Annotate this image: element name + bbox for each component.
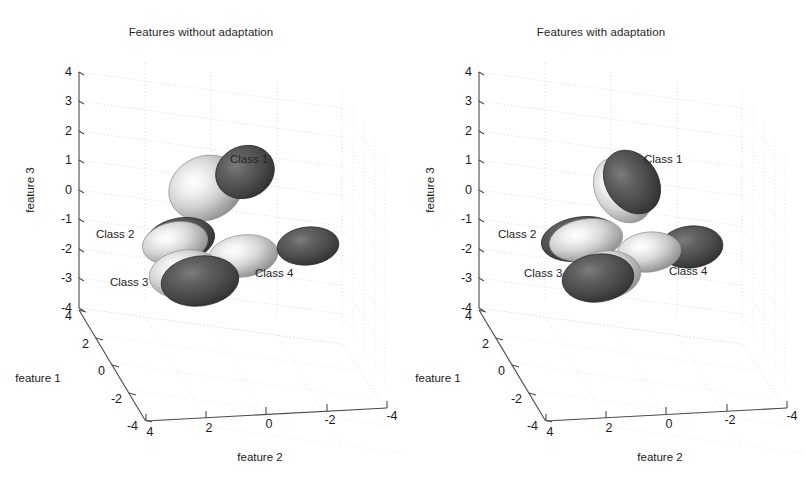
axis-feature1: 4 2 0 -2 -4 feature 1 xyxy=(415,309,552,433)
z-tick-0: 0 xyxy=(65,183,72,197)
figure-3d-feature-plots: Features without adaptation xyxy=(0,0,805,479)
x-tick-m4: -4 xyxy=(127,419,138,433)
z-tick-1: 1 xyxy=(65,153,72,167)
axis-feature3: 4 3 2 1 0 -1 -2 -3 -4 feature 3 xyxy=(424,65,484,315)
z-tick-4: 4 xyxy=(465,65,472,79)
x-tick-2: 2 xyxy=(482,337,489,351)
class-label-1: Class 1 xyxy=(230,153,268,165)
y-tick-2: 2 xyxy=(606,421,613,435)
axis-label-feature2: feature 2 xyxy=(237,451,282,463)
class-label-2: Class 2 xyxy=(96,228,134,240)
x-tick-4: 4 xyxy=(465,309,472,323)
y-tick-0: 0 xyxy=(266,417,273,431)
axis-feature2: 4 2 0 -2 -4 feature 2 xyxy=(146,401,398,463)
z-tick-m3: -3 xyxy=(61,271,72,285)
ellipsoid-class4-target xyxy=(275,224,341,268)
grid-right-wall xyxy=(342,106,385,408)
axis-label-feature1: feature 1 xyxy=(415,372,460,384)
z-tick-2: 2 xyxy=(465,124,472,138)
z-tick-3: 3 xyxy=(65,94,72,108)
x-tick-2: 2 xyxy=(82,337,89,351)
z-tick-m1: -1 xyxy=(61,212,72,226)
plot-right-svg: Class 1 Class 2 Class 3 Class 4 4 3 2 1 xyxy=(400,0,802,479)
y-tick-0: 0 xyxy=(666,417,673,431)
axis-feature2: 4 2 0 -2 -4 feature 2 xyxy=(546,401,798,463)
z-tick-3: 3 xyxy=(465,94,472,108)
class-label-3: Class 3 xyxy=(524,267,562,279)
axis-label-feature2: feature 2 xyxy=(637,451,682,463)
y-tick-m2: -2 xyxy=(324,413,335,427)
plot-panel-with-adaptation: Features with adaptation xyxy=(400,0,802,479)
x-tick-4: 4 xyxy=(65,309,72,323)
grid-right-wall xyxy=(742,106,785,408)
z-tick-2: 2 xyxy=(65,124,72,138)
x-tick-m4: -4 xyxy=(527,419,538,433)
z-tick-m2: -2 xyxy=(61,242,72,256)
y-tick-m2: -2 xyxy=(724,413,735,427)
z-tick-0: 0 xyxy=(465,183,472,197)
x-tick-m2: -2 xyxy=(111,392,122,406)
z-tick-m1: -1 xyxy=(461,212,472,226)
y-tick-m4: -4 xyxy=(786,409,797,423)
z-tick-m2: -2 xyxy=(461,242,472,256)
axis-label-feature1: feature 1 xyxy=(15,372,60,384)
y-tick-4: 4 xyxy=(147,425,154,439)
class-label-4: Class 4 xyxy=(669,265,708,277)
axis-feature3: 4 3 2 1 0 -1 -2 -3 -4 feature 3 xyxy=(24,65,84,315)
axis-label-feature3: feature 3 xyxy=(424,167,436,212)
z-tick-m3: -3 xyxy=(461,271,472,285)
class-label-1: Class 1 xyxy=(644,153,682,165)
axis-feature1: 4 2 0 -2 -4 feature 1 xyxy=(15,309,152,433)
class-label-4: Class 4 xyxy=(255,267,294,279)
plot-left-svg: Class 1 Class 2 Class 3 Class 4 4 3 2 1 xyxy=(0,0,402,479)
plot-panel-without-adaptation: Features without adaptation xyxy=(0,0,402,479)
axis-label-feature3: feature 3 xyxy=(24,167,36,212)
x-tick-0: 0 xyxy=(498,364,505,378)
x-tick-m2: -2 xyxy=(511,392,522,406)
y-tick-2: 2 xyxy=(206,421,213,435)
y-tick-4: 4 xyxy=(547,425,554,439)
class-label-2: Class 2 xyxy=(498,228,536,240)
class-label-3: Class 3 xyxy=(110,276,148,288)
z-tick-4: 4 xyxy=(65,65,72,79)
y-tick-m4: -4 xyxy=(386,409,397,423)
x-tick-0: 0 xyxy=(98,364,105,378)
z-tick-1: 1 xyxy=(465,153,472,167)
